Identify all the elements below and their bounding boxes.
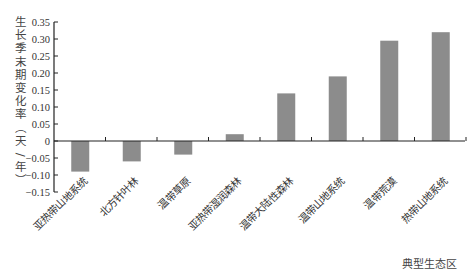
chart-plot-area: 0.350.300.250.200.150.100.050−0.05−0.10−…	[0, 0, 475, 277]
y-tick-label: 0.25	[32, 51, 50, 62]
bar	[174, 141, 192, 155]
bar	[123, 141, 141, 161]
y-title-char: /	[13, 148, 26, 162]
y-title-char: 末	[13, 56, 27, 69]
y-tick-label: 0.10	[32, 102, 50, 113]
y-tick-label: 0.35	[32, 17, 50, 28]
y-title-char: ︵	[13, 122, 27, 135]
bar	[432, 32, 450, 141]
y-axis: 0.350.300.250.200.150.100.050−0.05−0.10−…	[26, 17, 58, 198]
x-tick-label: 温带山地系统	[296, 174, 348, 226]
x-axis-title: 典型生态区	[402, 255, 457, 271]
x-axis	[54, 137, 466, 141]
y-tick-label: 0	[45, 136, 50, 147]
y-title-char: 天	[13, 135, 27, 148]
x-tick-label: 北方针叶林	[97, 174, 142, 219]
x-tick-labels: 亚热带山地系统北方针叶林温带草原亚热带湿润森林温带大陆性森林温带山地系统温带荒漠…	[31, 174, 450, 233]
y-tick-label: 0.05	[32, 119, 50, 130]
bar	[277, 93, 295, 141]
y-title-char: 率	[13, 108, 27, 121]
bar	[71, 141, 89, 172]
x-tick-label: 亚热带山地系统	[31, 174, 90, 233]
y-tick-label: −0.15	[26, 187, 50, 198]
y-tick-label: 0.15	[32, 85, 50, 96]
y-title-char: 季	[13, 42, 27, 55]
bar	[329, 76, 347, 141]
y-title-char: ︶	[13, 174, 27, 187]
y-tick-label: 0.20	[32, 68, 50, 79]
x-tick-label: 亚热带湿润森林	[186, 174, 245, 233]
x-tick-label: 热带山地系统	[399, 174, 451, 226]
bars	[71, 32, 450, 171]
x-tick-label: 温带大陆性森林	[237, 174, 296, 233]
y-tick-label: −0.05	[26, 153, 50, 164]
x-tick-label: 温带草原	[155, 175, 192, 212]
y-axis-title: 生长季末期变化率︵天/年︶	[13, 16, 27, 188]
y-tick-label: −0.10	[26, 170, 50, 181]
x-tick-label: 温带荒漠	[361, 174, 398, 211]
bar	[226, 134, 244, 141]
bar-chart: 0.350.300.250.200.150.100.050−0.05−0.10−…	[0, 0, 475, 277]
bar	[380, 41, 398, 141]
y-tick-label: 0.30	[32, 34, 50, 45]
